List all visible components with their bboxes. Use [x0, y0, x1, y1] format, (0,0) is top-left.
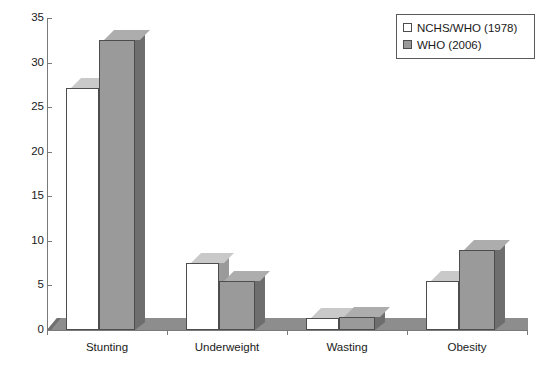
y-axis-tick	[47, 285, 52, 286]
legend-swatch-icon	[403, 23, 412, 32]
legend-item-label: NCHS/WHO (1978)	[417, 22, 517, 34]
bar-face	[99, 40, 135, 330]
x-axis-tick	[287, 330, 288, 335]
bar-side	[135, 32, 145, 330]
x-axis-category-label-obesity: Obesity	[407, 341, 527, 353]
bar-obesity-who-2006	[459, 250, 495, 330]
bar-face	[219, 281, 255, 330]
bar-underweight-nchs-who-1978	[186, 263, 219, 330]
x-axis-tick	[47, 330, 48, 335]
bar-stunting-nchs-who-1978	[66, 88, 99, 330]
bar-obesity-nchs-who-1978	[426, 281, 459, 330]
y-axis-tick-label: 0	[18, 324, 44, 336]
legend-swatch-icon	[403, 40, 412, 49]
y-axis-tick-label: 20	[18, 146, 44, 158]
y-axis-tick	[47, 107, 52, 108]
bar-face	[66, 88, 99, 330]
y-axis-tick-label: 30	[18, 57, 44, 69]
bar-face	[306, 318, 339, 330]
bar-side	[495, 242, 505, 330]
y-axis-tick	[47, 241, 52, 242]
bar-stunting-who-2006	[99, 40, 135, 330]
bar-wasting-nchs-who-1978	[306, 318, 339, 330]
bar-wasting-who-2006	[339, 317, 375, 330]
x-axis-category-label-wasting: Wasting	[287, 341, 407, 353]
y-axis-tick	[47, 196, 52, 197]
bar-chart: 35 30 25 20 15 10 5 0	[0, 0, 545, 374]
x-axis-category-label-stunting: Stunting	[47, 341, 167, 353]
x-axis-tick	[527, 330, 528, 335]
bar-face	[426, 281, 459, 330]
y-axis-tick-label: 35	[18, 12, 44, 24]
y-axis-tick-label: 15	[18, 190, 44, 202]
bar-face	[339, 317, 375, 330]
legend-item-who-2006: WHO (2006)	[403, 37, 528, 52]
legend-item-label: WHO (2006)	[417, 39, 482, 51]
bar-face	[459, 250, 495, 330]
y-axis-tick-label: 10	[18, 235, 44, 247]
x-axis-tick	[167, 330, 168, 335]
y-axis-tick	[47, 18, 52, 19]
bar-side	[255, 273, 265, 330]
y-axis-tick-label: 25	[18, 101, 44, 113]
x-axis-category-label-underweight: Underweight	[167, 341, 287, 353]
x-axis-tick	[407, 330, 408, 335]
y-axis-tick	[47, 63, 52, 64]
chart-legend: NCHS/WHO (1978) WHO (2006)	[396, 14, 535, 59]
y-axis-line	[47, 18, 48, 330]
bar-face	[186, 263, 219, 330]
legend-item-nchs-who-1978: NCHS/WHO (1978)	[403, 20, 528, 35]
bar-underweight-who-2006	[219, 281, 255, 330]
y-axis-tick-label: 5	[18, 279, 44, 291]
y-axis-tick	[47, 152, 52, 153]
